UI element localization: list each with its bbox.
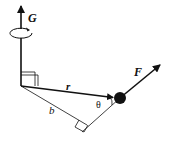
rotation-direction-icon — [10, 28, 32, 39]
line-of-action — [82, 98, 120, 132]
right-angle-marker-pivot — [21, 72, 38, 86]
angle-label: θ — [96, 99, 101, 110]
axis-label-g: G — [28, 11, 37, 25]
lever-arm-label: b — [49, 104, 55, 116]
point-mass — [114, 92, 126, 104]
force-label: F — [133, 65, 142, 79]
angle-arc — [110, 97, 112, 105]
torque-diagram: G r b θ F — [0, 0, 169, 142]
radius-label: r — [66, 80, 71, 92]
